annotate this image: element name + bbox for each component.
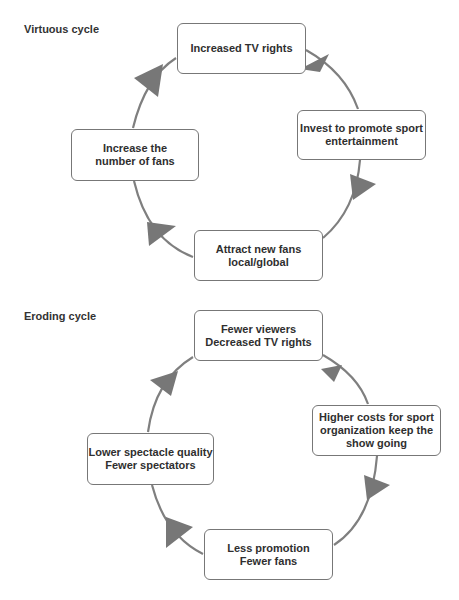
arc-e-right-to-bottom (334, 456, 377, 545)
arrow-v-1-icon (134, 64, 163, 97)
virtuous-cycle-title: Virtuous cycle (24, 23, 99, 35)
node-increased-tv-rights: Increased TV rights (177, 23, 306, 74)
node-invest-promote: Invest to promote sport entertainment (297, 110, 426, 160)
arc-v-bottom-to-left (134, 181, 193, 257)
eroding-cycle-title: Eroding cycle (24, 310, 96, 322)
node-increase-fans: Increase the number of fans (71, 129, 199, 181)
arc-e-top-to-right (323, 355, 368, 404)
arc-v-top-to-right (306, 50, 358, 109)
arc-e-bottom-to-left (152, 485, 203, 554)
node-fewer-viewers: Fewer viewers Decreased TV rights (194, 310, 323, 361)
arrow-e-2-icon (321, 365, 342, 382)
arrow-e-3-icon (364, 475, 390, 500)
node-lower-spectacle: Lower spectacle quality Fewer spectators (87, 433, 214, 485)
arc-v-right-to-bottom (323, 160, 360, 238)
node-less-promotion: Less promotion Fewer fans (204, 529, 333, 580)
cycle-arcs (0, 0, 459, 600)
node-attract-new-fans: Attract new fans local/global (194, 230, 323, 281)
arrow-e-1-icon (150, 371, 178, 396)
node-higher-costs: Higher costs for sport organization keep… (312, 405, 441, 456)
arrow-e-4-icon (166, 517, 193, 548)
arrow-v-3-icon (350, 174, 376, 200)
arrow-v-4-icon (147, 222, 176, 246)
